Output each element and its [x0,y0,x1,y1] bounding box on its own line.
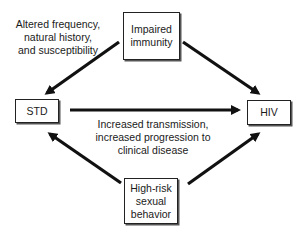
annotation-increased-transmission: Increased transmission, increased progre… [92,118,214,157]
node-impaired-immunity: Impaired immunity [123,12,180,60]
node-hiv: HIV [247,100,291,125]
node-std: STD [15,99,59,123]
node-high-risk-behavior: High-risk sexual behavior [124,178,178,224]
arrow-immunity-to-hiv [183,42,258,93]
diagram-canvas: Impaired immunity STD HIV High-risk sexu… [0,0,302,239]
annotation-altered-frequency: Altered frequency, natural history, and … [8,18,108,57]
